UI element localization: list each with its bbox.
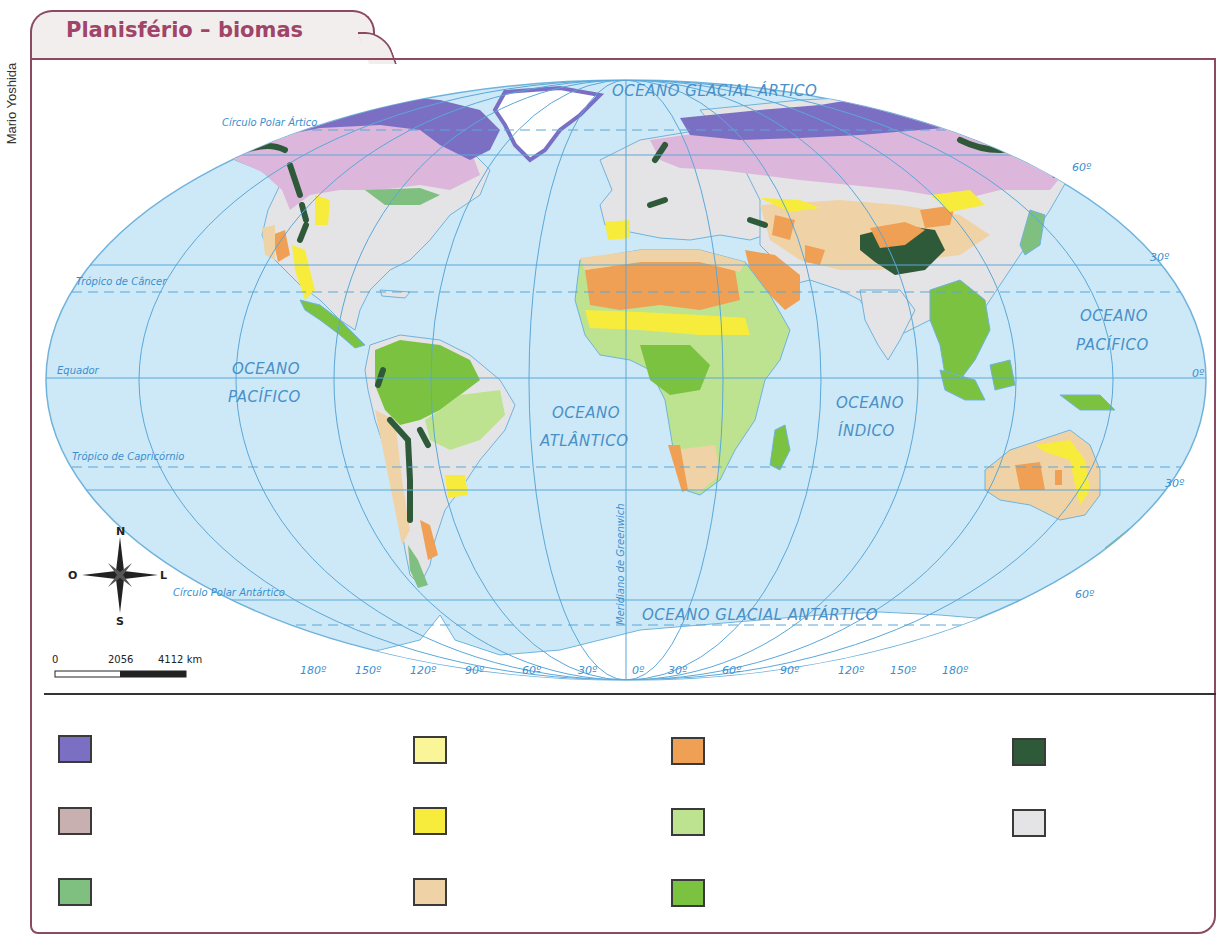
label-arctic-circle: Círculo Polar Ártico [222, 116, 317, 128]
scale-zero: 0 [52, 654, 58, 665]
label-equator: Equador [57, 365, 100, 376]
label-lat-s60: 60º [1075, 588, 1095, 601]
legend-swatch-mountain [1012, 738, 1046, 766]
longitude-label: 60º [522, 664, 542, 677]
longitude-label: 0º [632, 664, 645, 677]
legend-swatch-desert [671, 737, 705, 765]
longitude-label: 30º [578, 664, 598, 677]
label-lat-n60: 60º [1072, 161, 1092, 174]
legend-swatch-temperate-forest [58, 878, 92, 906]
scale-end: 4112 km [158, 654, 202, 665]
longitude-label: 60º [722, 664, 742, 677]
label-pacific-ocean-west-2: PACÍFICO [228, 387, 301, 406]
longitude-label: 120º [838, 664, 865, 677]
legend-separator [44, 693, 1216, 695]
legend-swatch-tundra [58, 735, 92, 763]
map-title: Planisfério – biomas [66, 18, 303, 42]
sahara-desert [585, 262, 740, 310]
label-greenwich-meridian: Meridiano de Greenwich [615, 503, 626, 625]
compass-north: N [116, 525, 125, 538]
world-map: OCEANO GLACIAL ÁRTICO OCEANO PACÍFICO OC… [0, 0, 1230, 946]
label-atlantic-ocean: OCEANO [552, 404, 620, 422]
longitude-label: 90º [465, 664, 485, 677]
longitude-labels: 180º150º120º90º60º30º0º30º60º90º120º150º… [300, 664, 969, 677]
scale-bar: 0 2056 4112 km [52, 654, 202, 677]
label-lat-s30: 30º [1165, 477, 1185, 490]
compass-east: L [160, 569, 167, 582]
legend-swatch-tropical-forest [671, 879, 705, 907]
label-antarctic-ocean: OCEANO GLACIAL ANTÁRTICO [642, 605, 878, 624]
legend-swatch-taiga [58, 807, 92, 835]
longitude-label: 120º [410, 664, 437, 677]
label-pacific-ocean-east: OCEANO [1080, 307, 1148, 325]
legend-swatch-savanna [413, 807, 447, 835]
longitude-label: 150º [355, 664, 382, 677]
label-pacific-ocean-east-2: PACÍFICO [1076, 335, 1149, 354]
longitude-label: 30º [668, 664, 688, 677]
legend-swatch-prairie [413, 736, 447, 764]
longitude-label: 180º [942, 664, 969, 677]
label-lat-n30: 30º [1150, 251, 1170, 264]
legend-swatch-tropical-grassland [671, 808, 705, 836]
north-america-prairie [315, 195, 330, 225]
label-lat-eq: 0º [1192, 367, 1205, 380]
longitude-label: 90º [780, 664, 800, 677]
label-indian-ocean-2: ÍNDICO [838, 421, 895, 440]
longitude-label: 180º [300, 664, 327, 677]
label-pacific-ocean-west: OCEANO [232, 360, 300, 378]
label-antarctic-circle: Círculo Polar Antártico [173, 587, 285, 598]
south-america-pampa [445, 475, 468, 498]
longitude-label: 150º [890, 664, 917, 677]
legend-swatch-altered-area [1012, 809, 1046, 837]
label-atlantic-ocean-2: ATLÂNTICO [539, 431, 629, 450]
compass-south: S [116, 615, 124, 628]
label-arctic-ocean: OCEANO GLACIAL ÁRTICO [612, 81, 817, 100]
label-tropic-cancer: Trópico de Câncer [76, 276, 167, 287]
compass-west: O [68, 569, 77, 582]
legend-swatch-semi-desert [413, 878, 447, 906]
scale-mid: 2056 [108, 654, 133, 665]
label-tropic-capricorn: Trópico de Capricórnio [72, 451, 184, 462]
label-indian-ocean: OCEANO [836, 394, 904, 412]
